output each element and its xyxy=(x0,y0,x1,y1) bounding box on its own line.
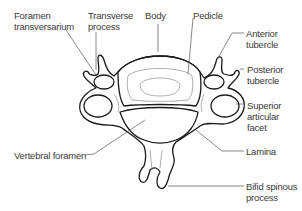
label-transverse-process: Transverse process xyxy=(88,10,133,32)
label-pedicle: Pedicle xyxy=(193,10,223,21)
right-articular-facet xyxy=(211,95,239,117)
label-posterior-tubercle: Posterior tubercle xyxy=(247,64,283,86)
label-bifid-spinous-process: Bifid spinous process xyxy=(246,181,297,203)
vertebral-foramen-outline xyxy=(120,108,198,144)
vertebral-body xyxy=(118,56,201,106)
label-vertebral-foramen: Vertebral foramen xyxy=(14,150,86,161)
label-anterior-tubercle: Anterior tubercle xyxy=(246,28,278,50)
label-foramen-transversarium: Foramen transversarium xyxy=(14,10,74,32)
leader-foramen-transversarium xyxy=(66,30,98,78)
label-lamina: Lamina xyxy=(246,146,276,157)
right-foramen-transversarium xyxy=(204,75,224,89)
leader-pedicle xyxy=(188,18,193,74)
label-superior-articular-facet: Superior articular facet xyxy=(247,100,281,133)
label-body: Body xyxy=(145,10,166,21)
leader-lamina xyxy=(196,130,244,151)
leader-anterior-tubercle xyxy=(218,33,244,58)
left-articular-facet xyxy=(84,95,112,117)
